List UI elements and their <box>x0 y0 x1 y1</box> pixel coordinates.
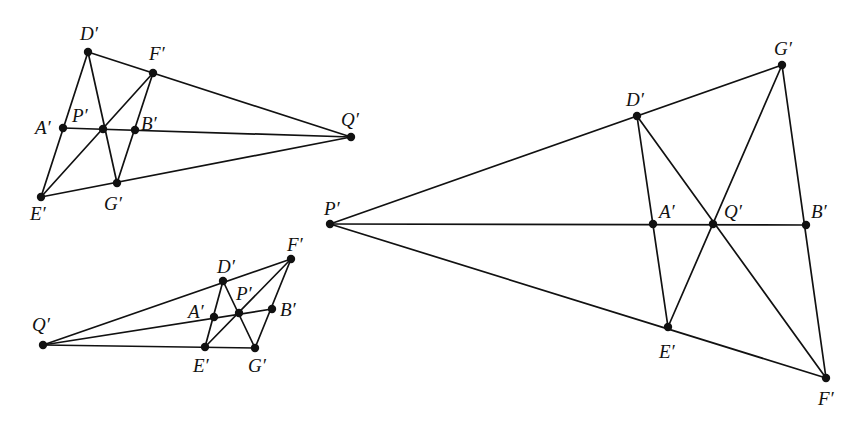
point-label-q: Q′ <box>724 201 743 222</box>
point-label-q: Q′ <box>341 109 360 130</box>
point-e <box>664 323 672 331</box>
point-label-e: E′ <box>29 203 47 224</box>
line-q-g <box>43 345 255 348</box>
point-label-g: G′ <box>248 355 267 376</box>
diagram-left-top: D′F′A′P′B′Q′G′E′ <box>29 23 360 224</box>
point-p <box>235 309 243 317</box>
point-label-a: A′ <box>657 201 676 222</box>
point-label-q: Q′ <box>32 314 51 335</box>
point-label-a: A′ <box>186 301 205 322</box>
point-label-d: D′ <box>625 89 645 110</box>
point-label-d: D′ <box>216 256 236 277</box>
point-label-e: E′ <box>192 355 210 376</box>
point-label-b: B′ <box>811 201 828 222</box>
point-d <box>84 48 92 56</box>
line-d-q <box>88 52 351 137</box>
point-a <box>649 220 657 228</box>
point-p <box>99 125 107 133</box>
point-label-p: P′ <box>323 198 341 219</box>
point-e <box>201 343 209 351</box>
point-label-d: D′ <box>79 23 99 44</box>
point-d <box>219 277 227 285</box>
point-f <box>149 69 157 77</box>
point-q <box>39 341 47 349</box>
diagram-right: P′D′G′A′Q′B′E′F′ <box>323 38 835 409</box>
point-label-p: P′ <box>235 283 253 304</box>
point-g <box>113 179 121 187</box>
point-g <box>251 344 259 352</box>
line-p-g <box>330 65 782 224</box>
line-p-b <box>330 224 806 225</box>
point-label-f: F′ <box>286 234 304 255</box>
point-label-a: A′ <box>33 117 52 138</box>
point-label-g: G′ <box>104 193 123 214</box>
point-label-f: F′ <box>148 43 166 64</box>
line-p-f <box>330 224 826 378</box>
point-label-f: F′ <box>817 388 835 409</box>
projective-diagrams: D′F′A′P′B′Q′G′E′ Q′D′F′A′P′B′E′G′ P′D′G′… <box>0 0 867 423</box>
point-f <box>287 255 295 263</box>
point-p <box>326 220 334 228</box>
point-b <box>268 305 276 313</box>
line-d-f <box>637 116 826 378</box>
point-a <box>59 124 67 132</box>
point-g <box>778 61 786 69</box>
line-g-e <box>668 65 782 327</box>
diagram-left-bottom: Q′D′F′A′P′B′E′G′ <box>32 234 304 376</box>
point-q <box>709 220 717 228</box>
point-label-b: B′ <box>141 113 158 134</box>
point-label-p: P′ <box>71 105 89 126</box>
point-label-b: B′ <box>280 299 297 320</box>
point-label-e: E′ <box>658 341 676 362</box>
point-f <box>822 374 830 382</box>
point-a <box>210 313 218 321</box>
point-e <box>37 193 45 201</box>
point-b <box>802 221 810 229</box>
point-label-g: G′ <box>774 38 793 59</box>
point-d <box>633 112 641 120</box>
point-b <box>131 126 139 134</box>
point-q <box>347 133 355 141</box>
line-q-f <box>43 259 291 345</box>
